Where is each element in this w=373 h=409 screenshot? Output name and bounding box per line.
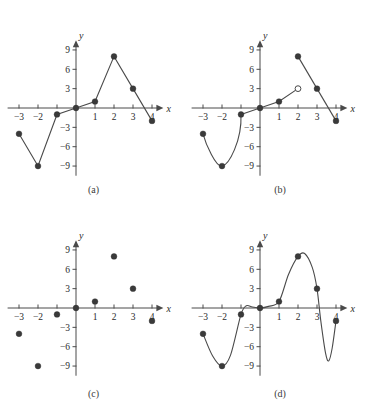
- y-tick-label: −6: [244, 142, 254, 152]
- data-point-marker: [276, 99, 282, 105]
- x-tick-label: 2: [112, 312, 117, 322]
- x-axis-label: x: [165, 103, 171, 114]
- y-tick-label: 3: [65, 84, 70, 94]
- x-tick-label: 1: [277, 112, 282, 122]
- panel-c-caption: (c): [0, 388, 187, 399]
- data-point-marker: [314, 286, 320, 292]
- y-tick-label: 6: [249, 65, 254, 75]
- panel-b-caption: (b): [187, 184, 373, 195]
- data-point-marker: [130, 286, 136, 292]
- panel-c: xy−3−21234963−3−6−9 (c): [0, 205, 187, 409]
- data-point-marker: [257, 105, 263, 111]
- plot-b: xy−3−21234963−3−6−9: [187, 0, 373, 205]
- x-tick-label: −3: [198, 112, 208, 122]
- y-axis-label: y: [78, 230, 84, 241]
- data-point-marker: [149, 118, 155, 124]
- data-segment: [203, 114, 241, 166]
- y-axis-arrow-icon: [73, 240, 79, 247]
- x-tick-label: 2: [112, 112, 117, 122]
- y-tick-label: 6: [65, 65, 70, 75]
- x-tick-label: −3: [14, 112, 24, 122]
- x-tick-label: −3: [198, 312, 208, 322]
- y-tick-label: 9: [249, 245, 254, 255]
- data-spline: [203, 253, 336, 366]
- data-point-marker: [238, 112, 244, 118]
- x-tick-label: −2: [217, 112, 227, 122]
- data-point-marker: [35, 163, 41, 169]
- data-point-marker: [130, 86, 136, 92]
- y-tick-label: −6: [60, 142, 70, 152]
- y-tick-label: −9: [60, 161, 70, 171]
- plot-d: xy−3−21234963−3−6−9: [187, 205, 373, 409]
- y-tick-label: −9: [244, 361, 254, 371]
- data-point-marker: [200, 131, 206, 137]
- x-tick-label: −2: [217, 312, 227, 322]
- panel-a-caption: (a): [0, 184, 187, 195]
- data-point-marker: [276, 299, 282, 305]
- data-point-marker: [200, 331, 206, 337]
- data-point-marker: [295, 254, 301, 260]
- data-point-marker: [257, 305, 263, 311]
- y-tick-label: −6: [244, 342, 254, 352]
- x-axis-label: x: [349, 103, 355, 114]
- x-tick-label: 3: [315, 112, 320, 122]
- x-tick-label: 3: [131, 112, 136, 122]
- y-axis-arrow-icon: [257, 240, 263, 247]
- data-point-marker: [73, 305, 79, 311]
- y-tick-label: 3: [65, 284, 70, 294]
- x-axis-arrow-icon: [156, 105, 163, 111]
- y-axis-arrow-icon: [73, 40, 79, 47]
- data-point-marker: [238, 312, 244, 318]
- data-point-marker: [16, 331, 22, 337]
- data-point-marker: [333, 318, 339, 324]
- panel-d-caption: (d): [187, 388, 373, 399]
- y-axis-label: y: [78, 30, 84, 41]
- x-axis-arrow-icon: [340, 105, 347, 111]
- x-axis-arrow-icon: [156, 305, 163, 311]
- y-tick-label: 3: [249, 84, 254, 94]
- figure-grid: xy−3−21234963−3−6−9 (a) xy−3−21234963−3−…: [0, 0, 373, 409]
- data-point-marker: [295, 54, 301, 60]
- y-tick-label: 9: [65, 245, 70, 255]
- x-axis-arrow-icon: [340, 305, 347, 311]
- data-point-marker: [333, 118, 339, 124]
- x-axis-label: x: [349, 303, 355, 314]
- panel-a: xy−3−21234963−3−6−9 (a): [0, 0, 187, 205]
- x-axis-label: x: [165, 303, 171, 314]
- y-tick-label: 3: [249, 284, 254, 294]
- data-point-marker: [73, 105, 79, 111]
- panel-d: xy−3−21234963−3−6−9 (d): [187, 205, 373, 409]
- data-point-marker: [219, 163, 225, 169]
- y-tick-label: −6: [60, 342, 70, 352]
- y-tick-label: −3: [60, 123, 70, 133]
- x-tick-label: 1: [93, 112, 98, 122]
- x-tick-label: 1: [277, 312, 282, 322]
- y-tick-label: −9: [244, 161, 254, 171]
- x-tick-label: 3: [315, 312, 320, 322]
- y-tick-label: −3: [60, 323, 70, 333]
- x-tick-label: 2: [296, 312, 301, 322]
- panel-b: xy−3−21234963−3−6−9 (b): [187, 0, 373, 205]
- y-axis-label: y: [262, 230, 268, 241]
- x-tick-label: −3: [14, 312, 24, 322]
- data-point-marker: [92, 299, 98, 305]
- x-tick-label: 3: [131, 312, 136, 322]
- x-tick-label: −2: [33, 112, 43, 122]
- data-point-marker: [111, 54, 117, 60]
- data-point-marker: [219, 363, 225, 369]
- data-point-marker: [54, 312, 60, 318]
- y-axis-arrow-icon: [257, 40, 263, 47]
- data-point-marker: [54, 112, 60, 118]
- data-point-marker: [16, 131, 22, 137]
- y-tick-label: 9: [249, 45, 254, 55]
- y-tick-label: 6: [65, 265, 70, 275]
- plot-a: xy−3−21234963−3−6−9: [0, 0, 187, 205]
- open-circle-marker: [295, 86, 301, 92]
- y-tick-label: −3: [244, 323, 254, 333]
- data-point-marker: [111, 254, 117, 260]
- y-axis-label: y: [262, 30, 268, 41]
- y-tick-label: −9: [60, 361, 70, 371]
- y-tick-label: 6: [249, 265, 254, 275]
- plot-c: xy−3−21234963−3−6−9: [0, 205, 187, 409]
- data-point-marker: [35, 363, 41, 369]
